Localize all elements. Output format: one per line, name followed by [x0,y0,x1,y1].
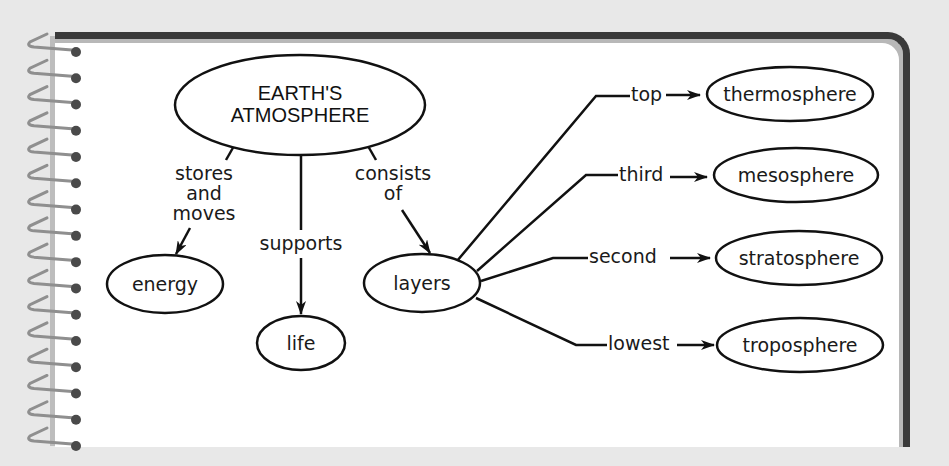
spiral-ring [29,60,81,83]
edge-label-second: second [589,245,657,267]
energy-label: energy [132,273,198,295]
root-label-line1: EARTH'S [258,82,343,104]
spiral-ring [29,139,81,162]
notebook-canvas: EARTH'S ATMOSPHERE stores and moves supp… [0,0,949,466]
spiral-ring [29,270,81,293]
spiral-ring [29,87,81,110]
mesosphere-label: mesosphere [738,164,855,186]
edge-label-and: and [186,182,222,204]
edge-layers-to-thermosphere [457,96,630,261]
thermosphere-label: thermosphere [723,83,857,105]
stratosphere-label: stratosphere [739,247,860,269]
spiral-binding [29,34,81,451]
spiral-ring [29,218,81,241]
troposphere-label: troposphere [743,334,858,356]
concept-map: EARTH'S ATMOSPHERE stores and moves supp… [0,0,949,466]
edge-label-top: top [631,83,662,105]
node-energy: energy [107,255,223,313]
edge-label-supports: supports [260,232,343,254]
edge-label-third: third [619,163,663,185]
edge-label-of: of [384,182,404,204]
layers-label: layers [393,272,451,294]
node-earths-atmosphere: EARTH'S ATMOSPHERE [175,55,425,155]
spiral-ring [29,165,81,188]
spiral-ring [29,375,81,398]
node-troposphere: troposphere [717,318,883,372]
node-life: life [257,316,345,370]
spiral-ring [29,323,81,346]
spiral-ring [29,34,81,57]
spiral-ring [29,113,81,136]
edge-layers-to-troposphere [476,298,607,345]
spiral-ring [29,402,81,425]
edge-root-to-layers-arrow [402,210,430,253]
edge-label-moves: moves [173,202,236,224]
edge-layers-to-stratosphere [481,258,588,281]
edge-label-lowest: lowest [608,332,669,354]
node-mesosphere: mesosphere [714,148,878,202]
node-thermosphere: thermosphere [707,67,873,121]
edge-label-stores: stores [175,162,233,184]
life-label: life [287,332,316,354]
root-label-line2: ATMOSPHERE [231,104,370,126]
node-stratosphere: stratosphere [716,231,882,285]
spiral-ring [29,428,81,451]
spiral-ring [29,349,81,372]
spiral-ring [29,297,81,320]
spiral-ring [29,244,81,267]
edge-label-consists: consists [355,162,432,184]
edge-root-to-energy-arrow [176,228,190,254]
node-layers: layers [364,254,480,312]
edge-root-to-layers-upper [368,146,376,160]
spiral-ring [29,192,81,215]
